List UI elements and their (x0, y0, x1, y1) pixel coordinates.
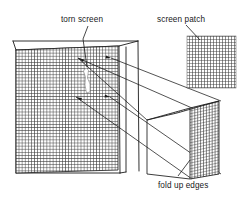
label-fold-up-edges: fold up edges (158, 181, 208, 190)
diagram-canvas: torn screen screen patch fold up edges (0, 0, 249, 199)
screen-mesh (14, 44, 122, 176)
screen-repair-diagram: torn screen screen patch fold up edges (0, 0, 249, 199)
label-torn-screen: torn screen (61, 15, 103, 24)
screen-patch-mesh (185, 34, 239, 91)
label-screen-patch: screen patch (157, 15, 205, 24)
